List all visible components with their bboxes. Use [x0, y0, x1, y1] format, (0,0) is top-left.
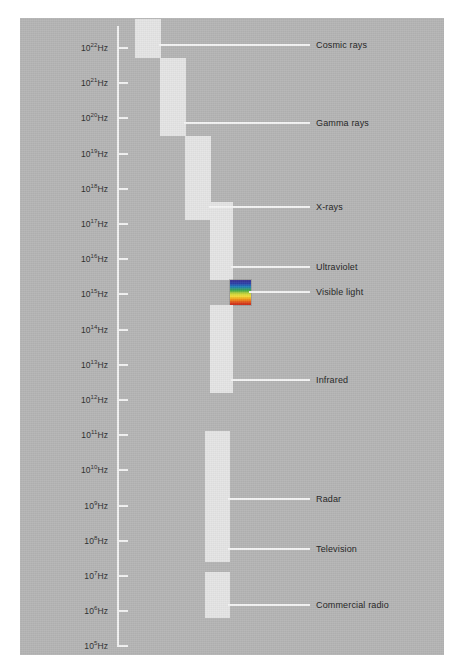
band-label-x-rays: X-rays — [316, 202, 343, 212]
axis-tick — [119, 575, 128, 577]
axis-tick — [119, 469, 128, 471]
leader-line-gamma-rays — [184, 122, 310, 124]
axis-tick-label: 1021Hz — [81, 78, 108, 88]
band-label-gamma-rays: Gamma rays — [316, 118, 369, 128]
axis-tick — [119, 364, 128, 366]
axis-tick — [119, 399, 128, 401]
axis-tick — [119, 47, 128, 49]
axis-tick-label: 1020Hz — [81, 113, 108, 123]
leader-line-television — [228, 548, 310, 550]
band-bar-visible-light — [230, 280, 251, 305]
axis-tick — [119, 82, 128, 84]
spectrum-figure: 1022Hz1021Hz1020Hz1019Hz1018Hz1017Hz1016… — [20, 18, 444, 655]
leader-line-visible-light — [249, 291, 310, 293]
band-label-infrared: Infrared — [316, 375, 348, 385]
axis-tick-label: 1013Hz — [81, 360, 108, 370]
axis-tick — [119, 434, 128, 436]
axis-tick-label: 1011Hz — [81, 430, 108, 440]
axis-tick-label: 1012Hz — [81, 395, 108, 405]
band-bar-commercial-radio — [205, 572, 230, 618]
axis-tick — [119, 329, 128, 331]
band-bar-infrared — [210, 305, 233, 393]
band-label-radar: Radar — [316, 494, 341, 504]
axis-tick-label: 1019Hz — [81, 149, 108, 159]
axis-tick-label: 1016Hz — [81, 254, 108, 264]
axis-tick — [119, 293, 128, 295]
axis-tick — [119, 540, 128, 542]
axis-tick-label: 1014Hz — [81, 325, 108, 335]
axis-tick-label: 106Hz — [84, 606, 108, 616]
axis-tick-label: 1022Hz — [81, 43, 108, 53]
band-label-ultraviolet: Ultraviolet — [316, 262, 358, 272]
band-bar-radar — [205, 431, 230, 512]
leader-line-infrared — [231, 379, 310, 381]
band-label-visible-light: Visible light — [316, 287, 363, 297]
axis-tick-label: 108Hz — [84, 536, 108, 546]
band-label-cosmic-rays: Cosmic rays — [316, 40, 367, 50]
axis-tick-label: 1017Hz — [81, 219, 108, 229]
axis-tick-label: 1010Hz — [81, 465, 108, 475]
leader-line-x-rays — [209, 206, 310, 208]
axis-tick-label: 105Hz — [84, 641, 108, 651]
band-bar-x-rays — [185, 136, 211, 220]
axis-tick — [119, 153, 128, 155]
axis-tick-label: 1015Hz — [81, 289, 108, 299]
axis-tick — [119, 223, 128, 225]
axis-tick-label: 107Hz — [84, 571, 108, 581]
leader-line-cosmic-rays — [159, 44, 310, 46]
axis-tick — [119, 505, 128, 507]
band-bar-gamma-rays — [160, 58, 186, 135]
leader-line-commercial-radio — [228, 604, 310, 606]
axis-tick-label: 1018Hz — [81, 184, 108, 194]
band-bar-television — [205, 512, 230, 561]
axis-tick-label: 109Hz — [84, 501, 108, 511]
axis-tick — [119, 117, 128, 119]
axis-tick — [119, 645, 128, 647]
band-label-commercial-radio: Commercial radio — [316, 600, 389, 610]
axis-tick — [119, 188, 128, 190]
axis-tick — [119, 258, 128, 260]
leader-line-radar — [228, 498, 310, 500]
axis-tick — [119, 610, 128, 612]
band-bar-ultraviolet — [210, 202, 233, 279]
leader-line-ultraviolet — [231, 266, 310, 268]
band-bar-cosmic-rays — [135, 19, 161, 58]
band-label-television: Television — [316, 544, 357, 554]
